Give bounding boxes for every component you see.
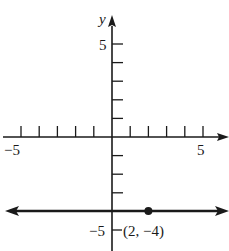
point-label: (2, −4) [123,223,164,240]
y-tick-label-pos5: 5 [99,37,107,53]
x-tick-label-neg5: −5 [4,142,20,158]
x-axis: −5 5 [3,126,229,158]
line-y-eq-neg4 [5,206,229,216]
y-axis-arrow-icon [108,15,116,27]
y-tick-label-neg5: −5 [89,223,105,239]
coordinate-plane: −5 5 y 5 −5 (2, −4) [0,0,229,251]
x-tick-label-pos5: 5 [197,142,205,158]
point-2-neg4 [144,207,152,215]
y-axis-label: y [97,11,106,27]
